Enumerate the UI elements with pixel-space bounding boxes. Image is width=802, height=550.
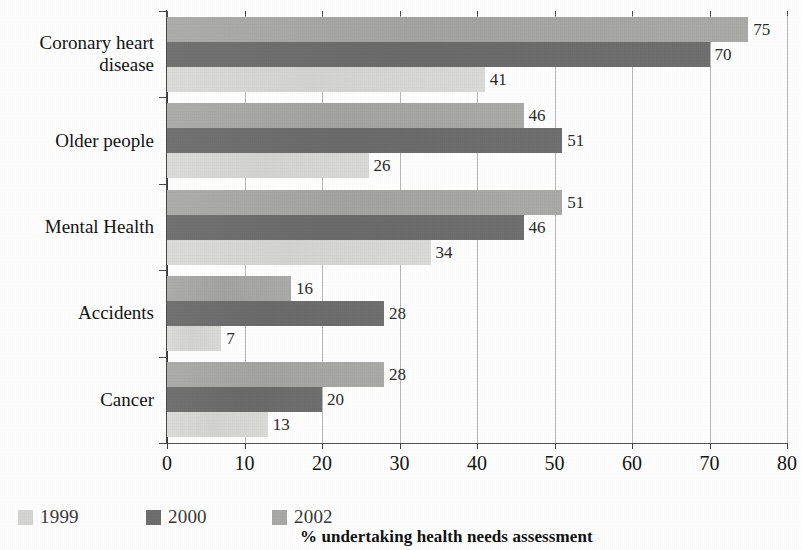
x-tick-top-0 xyxy=(167,11,168,16)
bar-value-2002-4: 28 xyxy=(384,362,406,387)
x-tick-label-50: 50 xyxy=(525,452,585,475)
bar-2000-4 xyxy=(167,387,322,412)
legend-swatch-icon-2002 xyxy=(272,510,287,525)
bar-value-2000-4: 20 xyxy=(322,387,344,412)
bar-value-1999-4: 13 xyxy=(268,412,290,437)
legend-swatch-icon-2000 xyxy=(146,510,161,525)
x-tick-0 xyxy=(167,443,168,449)
legend-item-2000[interactable]: 2000 xyxy=(146,506,207,528)
y-tick-end xyxy=(159,443,167,444)
bar-1999-0 xyxy=(167,67,485,92)
x-tick-60 xyxy=(632,443,633,449)
x-tick-label-40: 40 xyxy=(447,452,507,475)
bar-2002-2 xyxy=(167,190,562,215)
legend-label-2002: 2002 xyxy=(294,506,333,528)
category-label-4: Cancer xyxy=(100,389,154,411)
category-label-1: Older people xyxy=(55,130,154,152)
x-tick-top-80 xyxy=(787,11,788,16)
x-tick-top-40 xyxy=(477,11,478,16)
x-tick-top-60 xyxy=(632,11,633,16)
bar-value-2002-3: 16 xyxy=(291,276,313,301)
category-label-0: Coronary heart disease xyxy=(40,32,154,76)
y-axis-line xyxy=(166,10,167,444)
x-tick-10 xyxy=(245,443,246,449)
bar-value-1999-3: 7 xyxy=(221,326,235,351)
legend-label-1999: 1999 xyxy=(40,506,79,528)
bar-chart-figure: 75704146512651463416287282013 0102030405… xyxy=(0,0,802,550)
bar-value-1999-1: 26 xyxy=(369,153,391,178)
bar-value-2002-0: 75 xyxy=(748,17,770,42)
gridline-50 xyxy=(555,11,556,443)
bar-value-2000-3: 28 xyxy=(384,301,406,326)
x-tick-top-30 xyxy=(400,11,401,16)
legend-label-2000: 2000 xyxy=(168,506,207,528)
x-tick-50 xyxy=(555,443,556,449)
bar-value-2000-2: 46 xyxy=(524,215,546,240)
x-tick-label-20: 20 xyxy=(292,452,352,475)
x-tick-label-80: 80 xyxy=(757,452,802,475)
x-tick-label-60: 60 xyxy=(602,452,662,475)
chart-legend: 199920002002 xyxy=(18,506,358,528)
x-tick-80 xyxy=(787,443,788,449)
x-axis-title: % undertaking health needs assessment xyxy=(300,527,593,547)
bar-2000-3 xyxy=(167,301,384,326)
category-label-3: Accidents xyxy=(78,302,154,324)
gridline-60 xyxy=(632,11,633,443)
bar-2000-1 xyxy=(167,128,562,153)
bar-2002-1 xyxy=(167,103,524,128)
bar-2000-0 xyxy=(167,42,710,67)
bar-value-2000-0: 70 xyxy=(710,42,732,67)
category-label-2: Mental Health xyxy=(45,216,154,238)
bar-2000-2 xyxy=(167,215,524,240)
bar-2002-0 xyxy=(167,17,748,42)
y-tick-1 xyxy=(159,97,167,98)
plot-area: 75704146512651463416287282013 xyxy=(167,11,787,443)
y-tick-3 xyxy=(159,270,167,271)
bar-1999-1 xyxy=(167,153,369,178)
bar-1999-4 xyxy=(167,412,268,437)
bar-2002-4 xyxy=(167,362,384,387)
gridline-80 xyxy=(787,11,788,443)
bar-value-1999-0: 41 xyxy=(485,67,507,92)
y-tick-2 xyxy=(159,184,167,185)
x-tick-top-10 xyxy=(245,11,246,16)
bar-value-2002-1: 46 xyxy=(524,103,546,128)
x-tick-30 xyxy=(400,443,401,449)
bar-value-2002-2: 51 xyxy=(562,190,584,215)
bar-value-1999-2: 34 xyxy=(431,240,453,265)
gridline-70 xyxy=(710,11,711,443)
x-tick-top-70 xyxy=(710,11,711,16)
x-tick-label-30: 30 xyxy=(370,452,430,475)
x-tick-label-70: 70 xyxy=(680,452,740,475)
y-tick-4 xyxy=(159,357,167,358)
bar-1999-3 xyxy=(167,326,221,351)
x-tick-top-50 xyxy=(555,11,556,16)
legend-item-2002[interactable]: 2002 xyxy=(272,506,333,528)
y-tick-0 xyxy=(159,11,167,12)
x-tick-70 xyxy=(710,443,711,449)
bar-value-2000-1: 51 xyxy=(562,128,584,153)
x-tick-label-10: 10 xyxy=(215,452,275,475)
x-tick-label-0: 0 xyxy=(137,452,197,475)
bar-1999-2 xyxy=(167,240,431,265)
legend-swatch-icon-1999 xyxy=(18,510,33,525)
x-tick-40 xyxy=(477,443,478,449)
x-tick-20 xyxy=(322,443,323,449)
legend-item-1999[interactable]: 1999 xyxy=(18,506,79,528)
x-tick-top-20 xyxy=(322,11,323,16)
bar-2002-3 xyxy=(167,276,291,301)
